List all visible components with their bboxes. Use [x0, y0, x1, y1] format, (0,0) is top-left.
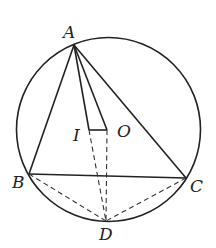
label-D: D [98, 224, 113, 244]
segment-AB [29, 45, 74, 174]
segment-BD [29, 174, 106, 221]
segment-AC [74, 45, 186, 178]
label-A: A [61, 22, 75, 42]
label-B: B [11, 172, 25, 192]
segment-AI [74, 45, 89, 130]
segment-BC [29, 174, 186, 178]
label-I: I [72, 125, 80, 145]
segment-CD [106, 178, 186, 221]
label-C: C [190, 176, 203, 196]
segment-OD [106, 130, 107, 221]
segment-AO [74, 45, 107, 130]
label-O: O [117, 121, 131, 141]
geometry-diagram: A B C D I O [0, 0, 216, 248]
